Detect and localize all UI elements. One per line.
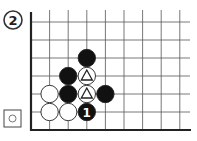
go-diagram: 2 1 xyxy=(0,0,197,141)
white-stone xyxy=(41,103,58,120)
stones-layer: 1 xyxy=(41,49,114,120)
black-stone xyxy=(59,85,76,102)
to-play-indicator xyxy=(4,110,21,127)
white-stone xyxy=(41,85,58,102)
white-stone xyxy=(59,103,76,120)
black-stone xyxy=(97,85,114,102)
white-stone xyxy=(78,85,95,102)
problem-number: 2 xyxy=(8,13,17,28)
black-stone xyxy=(59,67,76,84)
black-stone xyxy=(78,49,95,66)
problem-number-badge: 2 xyxy=(4,11,22,29)
black-stone: 1 xyxy=(78,103,95,120)
move-number: 1 xyxy=(83,106,91,120)
white-stone xyxy=(78,67,95,84)
white-stone-icon xyxy=(9,115,16,122)
